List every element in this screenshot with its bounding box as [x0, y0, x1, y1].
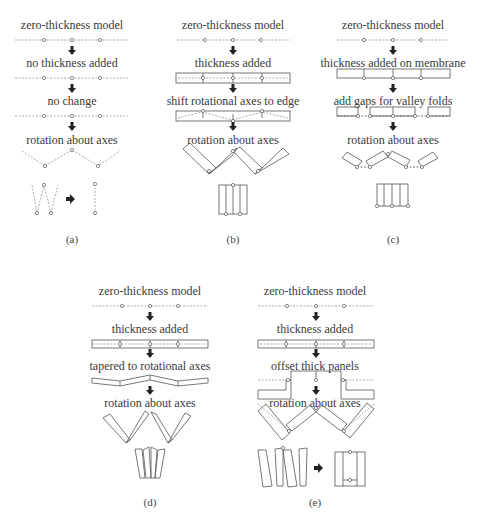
flow-arrows	[66, 46, 397, 473]
hinge-markers	[35, 38, 429, 481]
right-arrow-icon	[314, 463, 323, 473]
right-arrow-icon	[66, 194, 75, 204]
origami-thickness-diagram	[0, 0, 485, 531]
